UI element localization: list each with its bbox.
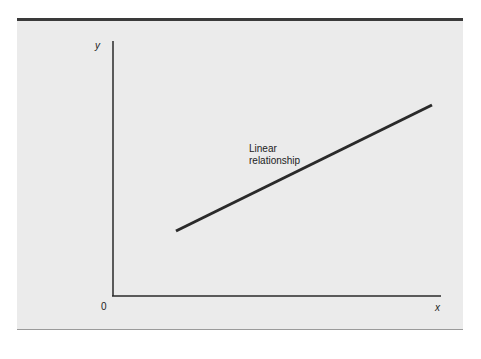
chart-canvas [0,0,481,359]
line-annotation: Linear relationship [249,143,300,167]
origin-label: 0 [101,301,107,312]
linear-relationship-line [176,105,432,231]
x-axis-label: x [435,302,440,313]
annotation-line-2: relationship [249,155,300,167]
annotation-line-1: Linear [249,143,300,155]
y-axis-label: y [95,40,100,51]
